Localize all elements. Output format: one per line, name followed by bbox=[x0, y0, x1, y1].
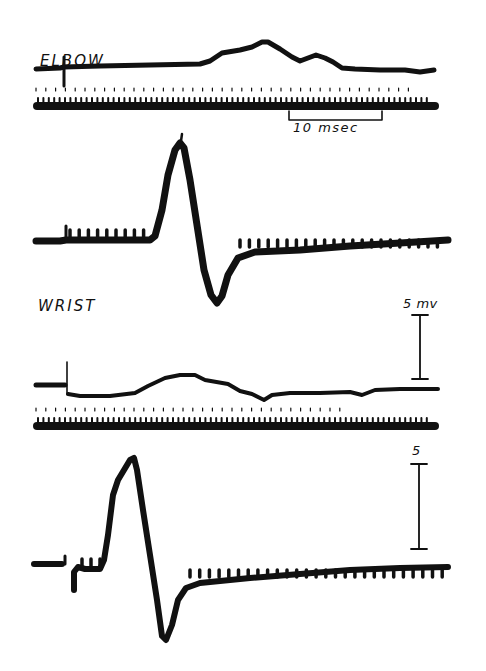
wrist-nerve-trace bbox=[36, 362, 438, 400]
wrist-muscle-trace bbox=[34, 458, 448, 640]
time-scale-bar bbox=[289, 111, 382, 120]
elbow-muscle-trace bbox=[36, 134, 448, 303]
wrist-dotted-marks bbox=[36, 408, 340, 411]
emg-figure: ELBOW WRIST 10 msec 5 mv 5 bbox=[0, 0, 486, 671]
voltage-scale-bar-upper bbox=[412, 315, 428, 379]
wrist-timing-trace bbox=[37, 418, 435, 426]
elbow-dotted-marks bbox=[36, 88, 408, 91]
voltage-scale-bar-lower bbox=[411, 464, 427, 549]
elbow-timing-trace bbox=[37, 98, 435, 106]
elbow-nerve-trace bbox=[36, 42, 434, 86]
